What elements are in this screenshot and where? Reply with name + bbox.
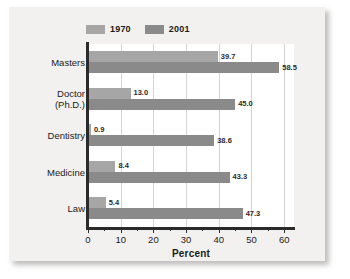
bar-row: 0.938.6	[88, 117, 294, 154]
bar-2001-law: 47.3	[88, 208, 243, 219]
x-axis-title: Percent	[88, 248, 294, 259]
bar-1970-doctorphd: 13.0	[88, 88, 131, 99]
x-tick-minor	[202, 227, 203, 231]
chart-figure: 1970 2001 Degree and field of study Mast…	[0, 0, 350, 279]
y-axis-line	[86, 42, 89, 229]
category-label: Medicine	[38, 167, 85, 178]
x-axis-tick-labels: 0102030405060	[88, 234, 294, 246]
legend-label-1970: 1970	[110, 25, 131, 34]
bar-row: 5.447.3	[88, 190, 294, 227]
x-tick-major	[219, 227, 220, 233]
bar-value-label: 58.5	[282, 64, 297, 72]
legend-swatch-1970	[86, 25, 105, 34]
category-label-line: (Ph.D.)	[38, 99, 85, 110]
bar-2001-medicine: 43.3	[88, 172, 230, 183]
bar-2001-dentistry: 38.6	[88, 135, 214, 146]
bar-value-label: 5.4	[109, 199, 119, 207]
x-tick-minor	[268, 227, 269, 231]
x-tick-label: 10	[115, 234, 126, 245]
x-tick-major	[121, 227, 122, 233]
x-tick-minor	[170, 227, 171, 231]
x-tick-label: 50	[246, 234, 257, 245]
category-label: Law	[38, 203, 85, 214]
chart-legend: 1970 2001	[86, 23, 190, 36]
x-tick-label: 20	[148, 234, 159, 245]
bar-value-label: 38.6	[217, 137, 232, 145]
x-tick-major	[153, 227, 154, 233]
bar-value-label: 39.7	[221, 53, 236, 61]
x-tick-label: 0	[85, 234, 90, 245]
bar-2001-doctorphd: 45.0	[88, 99, 235, 110]
category-label-line: Law	[38, 203, 85, 214]
bar-value-label: 47.3	[246, 210, 261, 218]
legend-label-2001: 2001	[169, 25, 190, 34]
x-tick-major	[251, 227, 252, 233]
bar-value-label: 8.4	[118, 163, 128, 171]
plot-area: 39.758.513.045.00.938.68.443.35.447.3	[88, 44, 294, 227]
x-tick-major	[88, 227, 89, 233]
bar-value-label: 43.3	[233, 174, 248, 182]
bar-1970-medicine: 8.4	[88, 161, 115, 172]
bar-value-label: 0.9	[94, 126, 104, 134]
x-tick-label: 30	[181, 234, 192, 245]
bar-row: 39.758.5	[88, 44, 294, 81]
category-label: Dentistry	[38, 130, 85, 141]
legend-entry-2001: 2001	[145, 25, 190, 34]
category-label-line: Dentistry	[38, 130, 85, 141]
bar-value-label: 13.0	[134, 89, 149, 97]
x-tick-minor	[104, 227, 105, 231]
x-tick-minor	[137, 227, 138, 231]
y-axis-tick-labels: MastersDoctor(Ph.D.)DentistryMedicineLaw	[38, 44, 85, 227]
bar-row: 13.045.0	[88, 81, 294, 118]
bar-1970-law: 5.4	[88, 197, 106, 208]
bar-row: 8.443.3	[88, 154, 294, 191]
legend-swatch-2001	[145, 25, 164, 34]
x-tick-label: 60	[279, 234, 290, 245]
category-label-line: Masters	[38, 57, 85, 68]
bar-rows: 39.758.513.045.00.938.68.443.35.447.3	[88, 44, 294, 227]
category-label: Masters	[38, 57, 85, 68]
category-label-line: Medicine	[38, 167, 85, 178]
bar-value-label: 45.0	[238, 100, 253, 108]
legend-entry-1970: 1970	[86, 25, 131, 34]
category-label: Doctor(Ph.D.)	[38, 88, 85, 110]
bar-1970-masters: 39.7	[88, 51, 218, 62]
x-tick-major	[186, 227, 187, 233]
x-tick-major	[284, 227, 285, 233]
bar-2001-masters: 58.5	[88, 62, 279, 73]
category-label-line: Doctor	[38, 88, 85, 99]
x-tick-minor	[235, 227, 236, 231]
x-tick-label: 40	[213, 234, 224, 245]
